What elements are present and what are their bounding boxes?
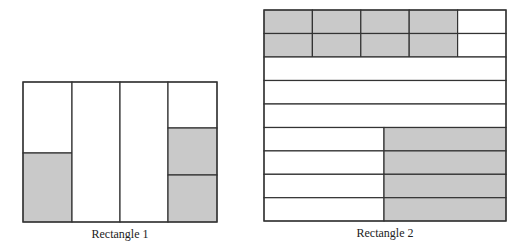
rect2-r8-right-shaded <box>384 174 506 197</box>
rect2-r1-c5 <box>458 10 506 34</box>
rect2-r8-left <box>264 174 384 197</box>
rect1-col4-top <box>168 82 217 128</box>
rect2-r6-right-shaded <box>384 128 506 151</box>
rectangle-1-caption: Rectangle 1 <box>92 227 149 242</box>
rect2-r5 <box>264 104 506 128</box>
rect1-col3 <box>120 82 168 222</box>
fraction-diagram <box>0 0 526 249</box>
rect2-r4 <box>264 81 506 105</box>
rect2-r2-c2 <box>312 34 360 58</box>
rect2-r6-left <box>264 128 384 151</box>
rect2-r2-c1 <box>264 34 312 58</box>
rect2-r2-c3 <box>361 34 409 58</box>
rect1-col1-bottom-shaded <box>23 153 72 222</box>
rect2-r1-c1 <box>264 10 312 34</box>
rect1-col2 <box>72 82 120 222</box>
rect2-r2-c5 <box>458 34 506 58</box>
rectangle-1 <box>23 82 217 222</box>
rect2-r1-c4 <box>409 10 457 34</box>
rect2-r7-left <box>264 151 384 174</box>
rect1-col4-middle-shaded <box>168 128 217 175</box>
rect2-r1-c3 <box>361 10 409 34</box>
rect2-r1-c2 <box>312 10 360 34</box>
rectangle-2-caption: Rectangle 2 <box>357 226 414 241</box>
rect2-r7-right-shaded <box>384 151 506 174</box>
rect1-col1-top <box>23 82 72 153</box>
rect2-r9-right-shaded <box>384 198 506 221</box>
rect2-r9-left <box>264 198 384 221</box>
rect2-r2-c4 <box>409 34 457 58</box>
rect1-col4-bottom-shaded <box>168 175 217 222</box>
rect2-r3 <box>264 57 506 81</box>
rectangle-2 <box>264 10 506 221</box>
